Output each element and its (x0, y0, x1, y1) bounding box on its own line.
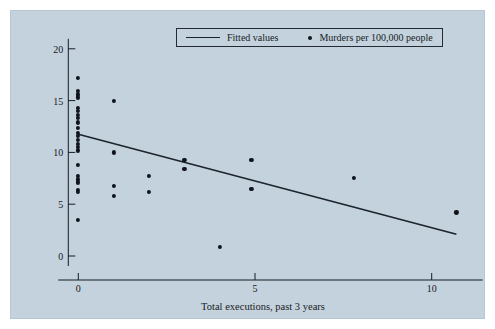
y-tick-label: 10 (53, 147, 63, 158)
axis-lines (58, 39, 482, 280)
fitted-line (78, 134, 456, 234)
x-axis-title: Total executions, past 3 years (201, 301, 325, 312)
legend-entry-fitted-values: Fitted values (186, 32, 278, 43)
chart-screenshot: 05101520 0510 Total executions, past 3 y… (0, 0, 495, 329)
legend-label-fitted-values: Fitted values (227, 32, 278, 43)
x-tick-label: 0 (76, 283, 81, 294)
dot-swatch-icon (308, 36, 312, 40)
legend-entry-murders: Murders per 100,000 people (308, 32, 432, 43)
plot-frame: 05101520 0510 Total executions, past 3 y… (11, 11, 484, 318)
y-tick-label: 0 (58, 251, 63, 262)
y-tick-label: 5 (58, 199, 63, 210)
x-tick-label: 5 (253, 283, 258, 294)
y-tick-label: 20 (53, 43, 63, 54)
line-swatch-icon (186, 37, 220, 38)
x-tick-label: 10 (427, 283, 437, 294)
y-tick-label: 15 (53, 95, 63, 106)
plot-area: 05101520 0510 Total executions, past 3 y… (11, 11, 484, 318)
fitted-values-line (78, 134, 456, 234)
legend: Fitted values Murders per 100,000 people (176, 28, 443, 47)
legend-label-murders: Murders per 100,000 people (319, 32, 432, 43)
axis-and-data-layer (11, 11, 484, 318)
